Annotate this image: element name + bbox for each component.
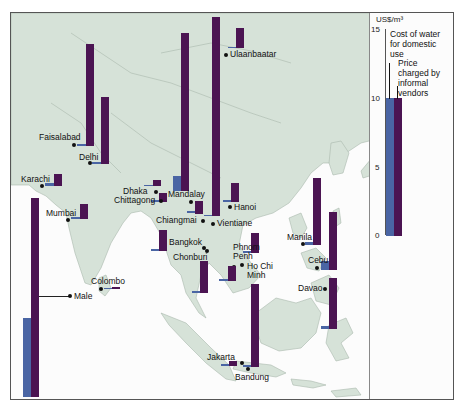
city-label-colombo: Colombo bbox=[91, 277, 125, 286]
city-dot-ho-chi-minh bbox=[240, 263, 244, 267]
bar-karachi-vendor bbox=[54, 174, 62, 186]
city-label-hanoi: Hanoi bbox=[234, 203, 256, 212]
city-label-karachi: Karachi bbox=[21, 175, 50, 184]
legend-panel: US$/m³ 15 10 5 0 Cost of water for domes… bbox=[369, 13, 454, 399]
city-label-bangkok: Bangkok bbox=[169, 238, 202, 247]
legend-tick-15: 15 bbox=[371, 25, 380, 34]
bar-hanoi-vendor bbox=[231, 183, 239, 202]
city-label-delhi: Delhi bbox=[79, 153, 98, 162]
legend-unit: US$/m³ bbox=[376, 15, 403, 24]
city-dot-davao bbox=[323, 287, 327, 291]
bar-dhaka-vendor bbox=[153, 180, 161, 186]
bar-davao-vendor bbox=[329, 278, 337, 329]
legend-label-vendor: Price charged by informal vendors bbox=[398, 58, 450, 98]
bar-mumbai-vendor bbox=[80, 204, 88, 219]
city-dot-colombo bbox=[99, 287, 103, 291]
city-label-chonburi: Chonburi bbox=[173, 253, 208, 262]
bar-faisalabad-vendor bbox=[86, 44, 94, 146]
city-dot-cebu bbox=[315, 266, 319, 270]
legend-bar-vendor bbox=[394, 98, 402, 236]
bar-ho-chi-minh-vendor bbox=[228, 266, 236, 281]
city-label-male: Male bbox=[74, 292, 92, 301]
city-label-faisalabad: Faisalabad bbox=[39, 133, 81, 142]
bar-mandalay-vendor bbox=[181, 33, 189, 191]
city-label-cebu: Cebu bbox=[308, 256, 328, 265]
city-label-phnom-penh: Phnom Penh bbox=[233, 243, 263, 261]
bar-delhi-domestic bbox=[92, 162, 101, 164]
city-label-bandung: Bandung bbox=[235, 373, 269, 382]
bar-male-vendor bbox=[31, 198, 39, 397]
bar-colombo-vendor bbox=[112, 287, 120, 289]
city-dot-ulaanbaatar bbox=[224, 53, 228, 57]
city-dot-manila bbox=[301, 242, 305, 246]
legend-tick-5: 5 bbox=[375, 163, 379, 172]
legend-pointer-domestic bbox=[389, 63, 390, 99]
city-dot-mumbai bbox=[66, 218, 70, 222]
city-label-manila: Manila bbox=[287, 233, 312, 242]
city-label-chittagong: Chittagong bbox=[114, 196, 155, 205]
city-label-mandalay: Mandalay bbox=[168, 190, 205, 199]
city-dot-male bbox=[68, 294, 72, 298]
bar-delhi-vendor bbox=[101, 97, 109, 164]
bar-chiangmai-vendor bbox=[195, 201, 203, 214]
legend-bar-domestic bbox=[386, 98, 394, 236]
city-label-davao: Davao bbox=[298, 284, 323, 293]
bar-chonburi-vendor bbox=[200, 261, 208, 293]
city-dot-vientiane bbox=[211, 222, 215, 226]
bar-ulaanbaatar-vendor bbox=[236, 28, 244, 48]
city-dot-dhaka bbox=[154, 190, 158, 194]
city-label-ho-chi-minh: Ho Chi Minh bbox=[247, 262, 279, 280]
city-dot-bandung bbox=[246, 367, 250, 371]
city-dot-faisalabad bbox=[72, 143, 76, 147]
male-leader-line bbox=[39, 296, 69, 297]
city-dot-mandalay bbox=[189, 200, 193, 204]
bar-colombo-domestic bbox=[104, 288, 112, 289]
bar-vientiane-vendor bbox=[212, 17, 220, 216]
city-dot-hanoi bbox=[228, 205, 232, 209]
map-frame: Faisalabad Delhi Karachi Mumbai Male Col… bbox=[10, 12, 454, 400]
city-label-chiangmai: Chiangmai bbox=[156, 216, 197, 225]
city-label-jakarta: Jakarta bbox=[207, 353, 235, 362]
city-label-vientiane: Vientiane bbox=[217, 219, 252, 228]
city-dot-chiangmai bbox=[201, 219, 205, 223]
bar-bandung-vendor bbox=[251, 284, 259, 367]
legend-tick-0: 0 bbox=[375, 231, 379, 240]
bar-bangkok-vendor bbox=[159, 230, 167, 251]
city-dot-chittagong bbox=[159, 199, 163, 203]
city-label-mumbai: Mumbai bbox=[46, 209, 76, 218]
legend-tick-10: 10 bbox=[371, 94, 380, 103]
city-dot-karachi bbox=[40, 184, 44, 188]
legend-label-domestic: Cost of water for domestic use bbox=[390, 29, 448, 59]
bar-cebu-vendor bbox=[329, 212, 337, 270]
city-label-ulaanbaatar: Ulaanbaatar bbox=[230, 50, 276, 59]
bar-manila-vendor bbox=[313, 178, 321, 245]
